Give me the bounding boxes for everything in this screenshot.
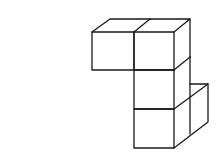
bottom-back-cube xyxy=(174,84,208,148)
cube-diagram xyxy=(0,0,220,160)
bottom-front-cube xyxy=(134,109,174,148)
cube-figure xyxy=(0,0,220,160)
top-right-cube xyxy=(134,19,190,70)
middle-cube xyxy=(134,57,190,109)
